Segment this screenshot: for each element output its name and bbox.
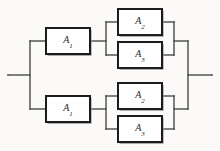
block-a1-bottom: A1 (46, 96, 92, 124)
reliability-block-diagram: A1A2A3A1A2A3 (0, 0, 220, 151)
component-blocks-group: A1A2A3A1A2A3 (46, 9, 164, 144)
block-a2-top: A2 (118, 9, 164, 37)
block-a1-top: A1 (46, 28, 92, 56)
connection-lines-group (8, 22, 212, 129)
block-a3-bottom: A3 (118, 116, 164, 144)
block-a2-bottom: A2 (118, 83, 164, 111)
diagram-canvas: A1A2A3A1A2A3 (0, 0, 220, 151)
block-a3-top: A3 (118, 42, 164, 70)
